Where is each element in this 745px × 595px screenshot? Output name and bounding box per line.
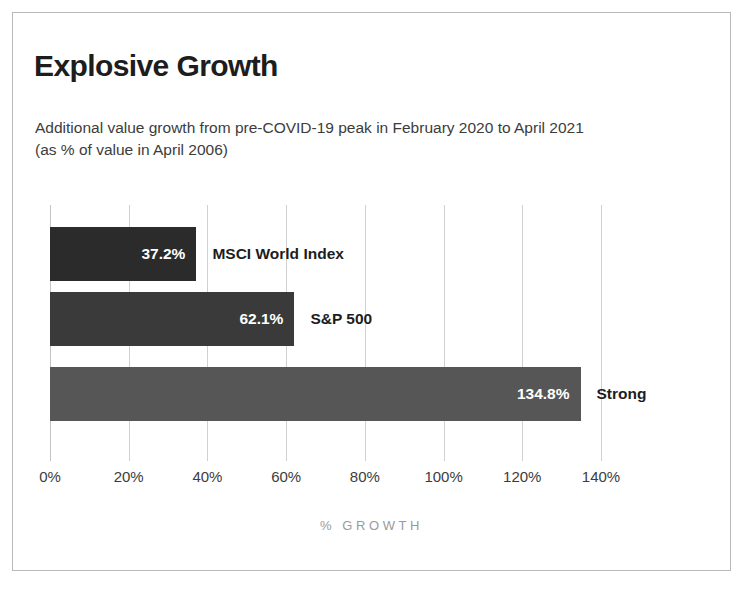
x-tick-label: 100% [424, 468, 462, 485]
bar-value-label: 134.8% [517, 385, 581, 403]
chart-subtitle: Additional value growth from pre-COVID-1… [35, 117, 605, 161]
bar[interactable]: 37.2% [50, 227, 196, 281]
x-axis: 0%20%40%60%80%100%120%140% [50, 468, 601, 490]
x-tick-label: 40% [192, 468, 222, 485]
x-tick-label: 60% [271, 468, 301, 485]
x-tick-label: 20% [114, 468, 144, 485]
x-tick-label: 140% [582, 468, 620, 485]
chart-card: Explosive Growth Additional value growth… [12, 12, 731, 571]
bar-category-label: S&P 500 [294, 292, 372, 346]
bar-value-label: 37.2% [141, 245, 196, 263]
bar-row[interactable]: 134.8%Strong [50, 367, 601, 421]
bar-row[interactable]: 62.1%S&P 500 [50, 292, 601, 346]
x-tick-label: 0% [39, 468, 61, 485]
x-tick-label: 120% [503, 468, 541, 485]
plot-area: 37.2%MSCI World Index62.1%S&P 500134.8%S… [50, 205, 601, 461]
bar[interactable]: 134.8% [50, 367, 581, 421]
bar-value-label: 62.1% [239, 310, 294, 328]
bar-row[interactable]: 37.2%MSCI World Index [50, 227, 601, 281]
bar-category-label: Strong [581, 367, 647, 421]
bar-category-label: MSCI World Index [196, 227, 343, 281]
chart-title: Explosive Growth [34, 49, 278, 83]
bar[interactable]: 62.1% [50, 292, 294, 346]
gridline [601, 205, 602, 461]
bar-series: 37.2%MSCI World Index62.1%S&P 500134.8%S… [50, 205, 601, 461]
x-axis-caption: % GROWTH [13, 518, 730, 533]
x-tick-label: 80% [350, 468, 380, 485]
